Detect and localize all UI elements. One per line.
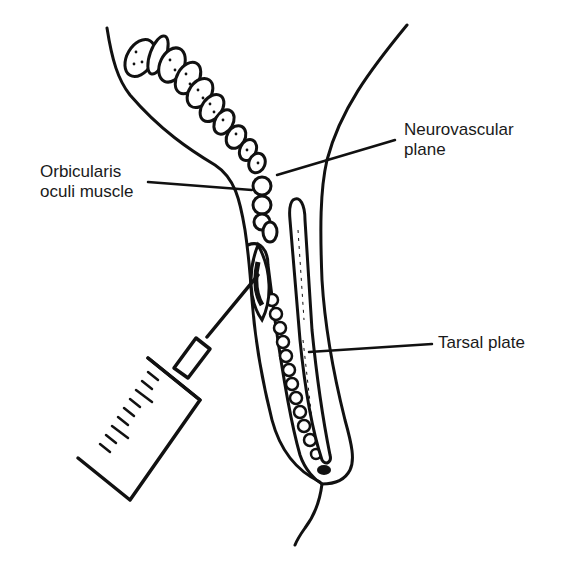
gland-orifice — [317, 465, 331, 475]
leader-orbicularis — [148, 182, 252, 190]
orbicularis-bundles — [119, 33, 277, 242]
syringe-graduations — [100, 372, 158, 452]
label-tarsal-plate: Tarsal plate — [438, 333, 525, 353]
leader-neurovascular — [277, 140, 395, 175]
label-orbicularis-oculi: Orbicularis oculi muscle — [40, 162, 134, 202]
label-tarsal-text: Tarsal plate — [438, 333, 525, 352]
leader-lines — [148, 140, 432, 352]
label-neurovascular-line2: plane — [404, 140, 514, 160]
syringe — [78, 275, 258, 500]
posterior-contour — [321, 25, 407, 484]
label-neurovascular-plane: Neurovascular plane — [404, 120, 514, 160]
lid-margin-line — [295, 484, 322, 545]
label-orbicularis-line2: oculi muscle — [40, 182, 134, 202]
label-neurovascular-line1: Neurovascular — [404, 120, 514, 140]
eyelid-injection-diagram — [0, 0, 569, 562]
label-orbicularis-line1: Orbicularis — [40, 162, 134, 182]
leader-tarsal — [309, 344, 432, 352]
